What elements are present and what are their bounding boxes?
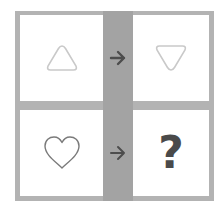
heart-icon <box>42 134 82 172</box>
cell-bottom-left <box>20 110 103 196</box>
middle-column-divider <box>103 11 133 201</box>
cell-bottom-right-answer: ? <box>133 110 209 196</box>
cell-top-left <box>20 15 103 101</box>
question-mark: ? <box>158 131 184 175</box>
analogy-puzzle-frame: ? <box>15 11 214 201</box>
triangle-down-icon <box>154 43 188 73</box>
triangle-up-icon <box>45 43 79 73</box>
row2-arrow <box>103 141 133 165</box>
arrow-right-icon <box>109 144 127 162</box>
cell-top-right <box>133 15 209 101</box>
arrow-right-icon <box>109 49 127 67</box>
row1-arrow <box>103 46 133 70</box>
